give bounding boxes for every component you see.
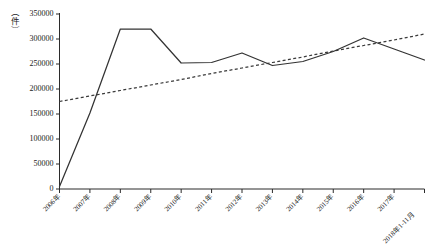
y-axis-tick-label: 200000 xyxy=(30,84,54,93)
y-axis-tick-label: 50000 xyxy=(34,159,54,168)
x-axis-tick-label: 2010年 xyxy=(162,192,183,213)
x-axis-tick-label: 2011年 xyxy=(193,192,214,213)
y-axis-tick-group: 0500001000001500002000002500003000003500… xyxy=(30,9,60,193)
x-axis-tick-label: 2009年 xyxy=(132,192,153,213)
x-axis-tick-label: 2012年 xyxy=(223,192,244,213)
x-axis-tick-label: 2018年1-11月 xyxy=(381,210,416,245)
y-axis-tick-label: 350000 xyxy=(30,9,54,18)
y-axis-tick-label: 150000 xyxy=(30,109,54,118)
x-axis-tick-label: 2007年 xyxy=(71,192,92,213)
chart-canvas: 0500001000001500002000002500003000003500… xyxy=(0,0,432,250)
x-axis-tick-group xyxy=(60,189,425,193)
y-axis-tick-label: 0 xyxy=(50,184,54,193)
y-axis-tick-label: 250000 xyxy=(30,59,54,68)
primary-line-series xyxy=(60,29,425,187)
y-axis-title: （件） xyxy=(3,8,18,35)
x-axis-tick-label: 2017年 xyxy=(375,192,396,213)
line-chart: （件） 050000100000150000200000250000300000… xyxy=(0,0,432,250)
x-axis-tick-label: 2014年 xyxy=(284,192,305,213)
y-axis-tick-label: 300000 xyxy=(30,34,54,43)
x-axis-tick-label: 2013年 xyxy=(254,192,275,213)
x-axis-tick-label: 2015年 xyxy=(314,192,335,213)
x-axis-label-group: 2006年2007年2008年2009年2010年2011年2012年2013年… xyxy=(41,192,416,245)
x-axis-tick-label: 2016年 xyxy=(345,192,366,213)
x-axis-tick-label: 2006年 xyxy=(41,192,62,213)
x-axis-tick-label: 2008年 xyxy=(102,192,123,213)
y-axis-tick-label: 100000 xyxy=(30,134,54,143)
